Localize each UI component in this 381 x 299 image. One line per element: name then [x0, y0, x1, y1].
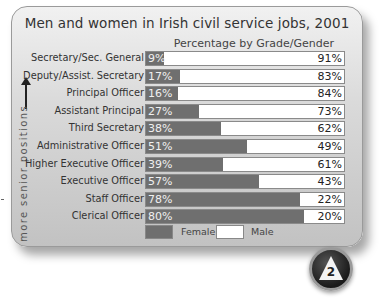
stacked-bar: 39%61%	[145, 157, 345, 172]
stacked-bar: 16%84%	[145, 86, 345, 101]
male-value: 91%	[318, 52, 342, 65]
badge-number: 2	[312, 265, 350, 279]
bar-row: Principal Officer16%84%	[12, 86, 362, 101]
category-label: Secretary/Sec. General	[31, 52, 144, 63]
legend-male-label: Male	[251, 226, 274, 237]
female-value: 51%	[148, 140, 172, 153]
bar-row: Third Secretary38%62%	[12, 121, 362, 136]
bar-row: Administrative Officer51%49%	[12, 139, 362, 154]
category-label: Administrative Officer	[37, 140, 144, 151]
stacked-bar: 9%91%	[145, 51, 345, 66]
male-value: 84%	[318, 87, 342, 100]
category-label: Clerical Officer	[72, 210, 144, 221]
male-value: 49%	[318, 140, 342, 153]
male-value: 22%	[318, 193, 342, 206]
category-label: Principal Officer	[67, 87, 145, 98]
female-value: 39%	[148, 158, 172, 171]
male-value: 61%	[318, 158, 342, 171]
bar-row: Clerical Officer80%20%	[12, 209, 362, 224]
stacked-bar: 27%73%	[145, 104, 345, 119]
chart-card: Men and women in Irish civil service job…	[11, 6, 363, 247]
bar-row: Assistant Principal27%73%	[12, 104, 362, 119]
female-value: 16%	[148, 87, 172, 100]
stacked-bar: 80%20%	[145, 209, 345, 224]
male-value: 43%	[318, 175, 342, 188]
male-value: 73%	[318, 105, 342, 118]
female-value: 57%	[148, 175, 172, 188]
stacked-bar: 17%83%	[145, 69, 345, 84]
male-value: 83%	[318, 70, 342, 83]
chart-subtitle: Percentage by Grade/Gender	[174, 37, 334, 50]
male-value: 62%	[318, 122, 342, 135]
bar-row: Secretary/Sec. General9%91%	[12, 51, 362, 66]
category-label: Deputy/Assist. Secretary	[23, 70, 144, 81]
stacked-bar: 78%22%	[145, 192, 345, 207]
decorative-mark	[1, 199, 4, 200]
bar-row: Executive Officer57%43%	[12, 174, 362, 189]
female-value: 9%	[148, 52, 165, 65]
category-label: Higher Executive Officer	[25, 158, 144, 169]
category-label: Third Secretary	[69, 122, 144, 133]
female-value: 27%	[148, 105, 172, 118]
female-value: 38%	[148, 122, 172, 135]
female-value: 17%	[148, 70, 172, 83]
stacked-bar: 57%43%	[145, 174, 345, 189]
female-value: 80%	[148, 210, 172, 223]
stacked-bar: 38%62%	[145, 121, 345, 136]
stacked-bar: 51%49%	[145, 139, 345, 154]
category-label: Executive Officer	[61, 175, 144, 186]
bar-row: Higher Executive Officer39%61%	[12, 157, 362, 172]
step-badge: 2	[309, 247, 353, 291]
bar-row: Deputy/Assist. Secretary17%83%	[12, 69, 362, 84]
bar-row: Staff Officer78%22%	[12, 192, 362, 207]
female-value: 78%	[148, 193, 172, 206]
category-label: Staff Officer	[85, 193, 144, 204]
chart-title: Men and women in Irish civil service job…	[12, 15, 362, 31]
legend-female-swatch	[145, 225, 173, 239]
legend-female-label: Female	[181, 226, 215, 237]
category-label: Assistant Principal	[55, 105, 145, 116]
legend-male-swatch	[216, 225, 244, 239]
male-value: 20%	[318, 210, 342, 223]
